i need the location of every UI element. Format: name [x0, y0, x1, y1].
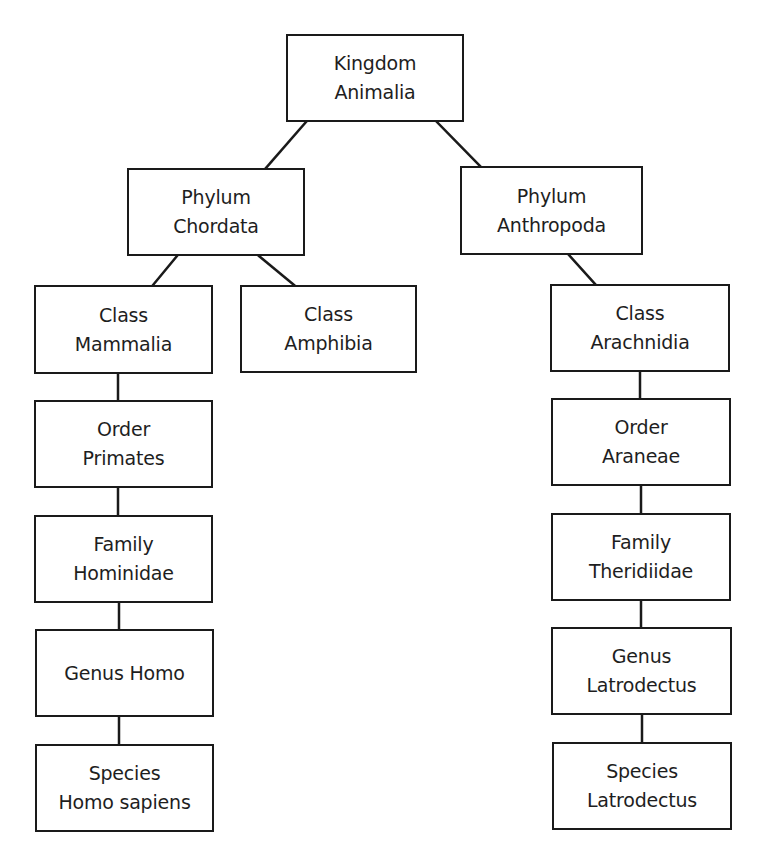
node-taxon-label: Animalia: [334, 78, 415, 107]
node-taxon-label: Anthropoda: [497, 211, 606, 240]
node-taxon-label: Latrodectus: [587, 786, 697, 815]
node-taxon-label: Homo sapiens: [58, 788, 190, 817]
connector-phylum-chordata-to-class-amphibia: [259, 256, 294, 285]
node-taxon-label: Primates: [83, 444, 165, 473]
node-class-amphibia: Class Amphibia: [240, 285, 417, 373]
node-rank-label: Phylum: [181, 183, 250, 212]
node-rank-label: Species: [606, 757, 678, 786]
node-genus-latrodectus: Genus Latrodectus: [551, 627, 732, 715]
node-order-araneae: Order Araneae: [551, 398, 731, 486]
node-rank-label: Order: [97, 415, 150, 444]
connector-kingdom-animalia-to-phylum-chordata: [266, 122, 306, 168]
node-taxon-label: Mammalia: [75, 330, 172, 359]
node-rank-label: Order: [615, 413, 668, 442]
node-species-homo-sapiens: Species Homo sapiens: [35, 744, 214, 832]
node-rank-label: Class: [304, 300, 353, 329]
node-rank-label: Genus: [612, 642, 671, 671]
node-taxon-label: Chordata: [173, 212, 259, 241]
node-family-hominidae: Family Hominidae: [34, 515, 213, 603]
node-taxon-label: Theridiidae: [589, 557, 693, 586]
node-family-theridiidae: Family Theridiidae: [551, 513, 731, 601]
connector-phylum-chordata-to-class-mammalia: [153, 256, 177, 285]
taxonomy-diagram: Kingdom Animalia Phylum Chordata Phylum …: [0, 0, 763, 856]
node-taxon-label: Arachnidia: [590, 328, 689, 357]
node-kingdom-animalia: Kingdom Animalia: [286, 34, 464, 122]
node-taxon-label: Amphibia: [284, 329, 372, 358]
node-rank-label: Genus Homo: [64, 659, 184, 688]
node-rank-label: Species: [89, 759, 161, 788]
connector-kingdom-animalia-to-phylum-anthropoda: [437, 122, 480, 166]
connector-phylum-anthropoda-to-class-arachnidia: [569, 255, 595, 284]
node-order-primates: Order Primates: [34, 400, 213, 488]
node-class-arachnidia: Class Arachnidia: [550, 284, 730, 372]
node-phylum-anthropoda: Phylum Anthropoda: [460, 166, 643, 255]
node-species-latrodectus: Species Latrodectus: [552, 742, 732, 830]
node-rank-label: Phylum: [517, 182, 586, 211]
node-phylum-chordata: Phylum Chordata: [127, 168, 305, 256]
node-rank-label: Class: [99, 301, 148, 330]
node-rank-label: Family: [611, 528, 671, 557]
node-class-mammalia: Class Mammalia: [34, 285, 213, 374]
node-taxon-label: Latrodectus: [586, 671, 696, 700]
node-taxon-label: Araneae: [602, 442, 680, 471]
node-taxon-label: Hominidae: [73, 559, 174, 588]
node-rank-label: Family: [94, 530, 154, 559]
node-rank-label: Kingdom: [334, 49, 417, 78]
node-genus-homo: Genus Homo: [35, 629, 214, 717]
node-rank-label: Class: [616, 299, 665, 328]
